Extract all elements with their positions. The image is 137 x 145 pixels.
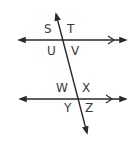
- angle-label-s: S: [44, 22, 52, 36]
- angle-label-z: Z: [85, 101, 93, 115]
- top-parallel-line: [19, 36, 126, 44]
- angle-label-u: U: [47, 44, 56, 58]
- angle-label-w: W: [56, 81, 68, 95]
- parallel-lines-diagram: S T U V W X Y Z: [0, 0, 137, 145]
- angle-label-y: Y: [63, 101, 72, 115]
- angle-label-t: T: [66, 22, 75, 36]
- angle-label-v: V: [71, 44, 80, 58]
- bottom-parallel-line: [20, 95, 126, 103]
- angle-label-x: X: [82, 81, 90, 95]
